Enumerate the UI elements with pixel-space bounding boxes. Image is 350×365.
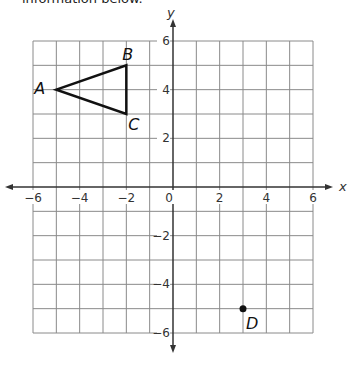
x-tick-label: −6 — [24, 191, 42, 205]
y-tick-label: −6 — [152, 326, 170, 340]
coordinate-plane: xy −6−4−20246642−2−4−6 ABC D — [0, 0, 350, 365]
y-axis-label: y — [166, 5, 175, 20]
x-tick-label: −2 — [117, 191, 135, 205]
x-tick-label: 2 — [216, 191, 224, 205]
x-tick-label: −4 — [71, 191, 89, 205]
y-tick-label: 6 — [162, 34, 170, 48]
y-tick-label: −4 — [152, 277, 170, 291]
point-d-marker — [240, 305, 247, 312]
vertex-label-c: C — [128, 115, 140, 134]
y-tick-label: 2 — [162, 131, 170, 145]
x-axis-label: x — [338, 179, 347, 194]
y-axis-up-arrow-icon — [170, 19, 176, 27]
vertex-label-b: B — [122, 45, 133, 64]
vertex-label-a: A — [33, 79, 45, 98]
x-axis-left-arrow-icon — [5, 184, 13, 190]
x-tick-label: 6 — [309, 191, 317, 205]
y-tick-label: 4 — [162, 83, 170, 97]
x-tick-label: 0 — [165, 191, 173, 205]
y-axis-down-arrow-icon — [170, 345, 176, 353]
x-tick-label: 4 — [263, 191, 271, 205]
y-tick-label: −2 — [152, 229, 170, 243]
point-markers: D — [240, 305, 259, 333]
x-axis-right-arrow-icon — [325, 184, 333, 190]
point-label-d: D — [246, 314, 258, 333]
